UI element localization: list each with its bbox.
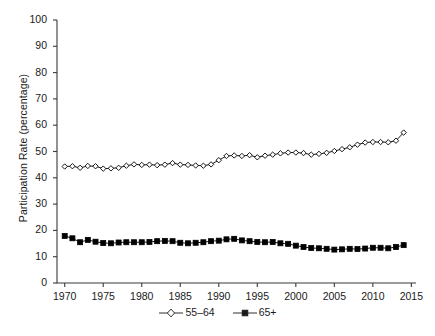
data-point-marker <box>332 148 337 153</box>
data-point-marker <box>301 150 306 155</box>
data-point-marker <box>101 241 106 246</box>
data-point-marker <box>77 165 82 170</box>
x-tick-label: 2005 <box>314 290 354 302</box>
data-point-marker <box>378 245 383 250</box>
data-point-marker <box>332 247 337 252</box>
data-point-marker <box>339 146 344 151</box>
data-point-marker <box>255 239 260 244</box>
data-point-marker <box>224 153 229 158</box>
data-point-marker <box>270 152 275 157</box>
series-55-64 <box>62 130 406 171</box>
data-point-marker <box>355 247 360 252</box>
data-point-marker <box>262 153 267 158</box>
data-point-marker <box>293 150 298 155</box>
data-point-marker <box>124 240 129 245</box>
y-tick-label: 90 <box>17 39 47 51</box>
data-point-marker <box>316 246 321 251</box>
x-tick-label: 1990 <box>199 290 239 302</box>
data-point-marker <box>193 163 198 168</box>
data-point-marker <box>386 246 391 251</box>
data-point-marker <box>85 163 90 168</box>
x-tick-label: 1985 <box>160 290 200 302</box>
data-point-marker <box>247 152 252 157</box>
series-line <box>65 133 404 169</box>
data-point-marker <box>309 152 314 157</box>
data-point-marker <box>147 162 152 167</box>
data-point-marker <box>363 246 368 251</box>
data-point-marker <box>132 240 137 245</box>
data-point-marker <box>247 239 252 244</box>
data-point-marker <box>62 164 67 169</box>
data-point-marker <box>278 151 283 156</box>
y-tick-label: 70 <box>17 92 47 104</box>
data-point-marker <box>93 239 98 244</box>
chart-figure: Participation Rate (percentage) 01020304… <box>0 0 435 336</box>
plot-area <box>0 0 435 336</box>
data-point-marker <box>362 140 367 145</box>
data-point-marker <box>108 241 113 246</box>
data-point-marker <box>70 164 75 169</box>
data-point-marker <box>131 162 136 167</box>
data-point-marker <box>286 241 291 246</box>
data-point-marker <box>147 239 152 244</box>
y-tick-label: 80 <box>17 66 47 78</box>
data-point-marker <box>301 244 306 249</box>
legend-label-55-64: 55–64 <box>185 307 214 319</box>
y-tick-label: 30 <box>17 197 47 209</box>
data-point-marker <box>370 139 375 144</box>
data-point-marker <box>378 139 383 144</box>
y-tick-label: 40 <box>17 171 47 183</box>
data-point-marker <box>85 237 90 242</box>
x-tick-label: 1970 <box>45 290 85 302</box>
x-tick-label: 1975 <box>83 290 123 302</box>
data-point-marker <box>386 140 391 145</box>
data-point-marker <box>93 164 98 169</box>
data-point-marker <box>193 240 198 245</box>
y-tick-label: 100 <box>17 13 47 25</box>
data-point-marker <box>70 236 75 241</box>
data-point-marker <box>347 246 352 251</box>
data-point-marker <box>201 240 206 245</box>
data-point-marker <box>116 240 121 245</box>
data-point-marker <box>216 157 221 162</box>
data-point-marker <box>154 162 159 167</box>
data-point-marker <box>101 166 106 171</box>
data-point-marker <box>170 239 175 244</box>
data-point-marker <box>78 240 83 245</box>
data-point-marker <box>208 162 213 167</box>
data-point-marker <box>278 241 283 246</box>
data-point-marker <box>155 239 160 244</box>
legend-label-65-plus: 65+ <box>259 307 277 319</box>
filled-square-icon <box>232 307 258 319</box>
data-point-marker <box>124 163 129 168</box>
data-point-marker <box>324 246 329 251</box>
data-point-marker <box>185 241 190 246</box>
open-diamond-icon <box>158 307 184 319</box>
legend-item-65-plus[interactable]: 65+ <box>232 307 277 319</box>
data-point-marker <box>316 151 321 156</box>
data-point-marker <box>216 238 221 243</box>
data-point-marker <box>209 239 214 244</box>
data-point-marker <box>270 239 275 244</box>
data-point-marker <box>162 238 167 243</box>
y-tick-label: 0 <box>17 276 47 288</box>
y-tick-label: 60 <box>17 118 47 130</box>
data-point-marker <box>239 153 244 158</box>
data-point-marker <box>309 246 314 251</box>
legend-item-55-64[interactable]: 55–64 <box>158 307 214 319</box>
data-point-marker <box>62 233 67 238</box>
data-point-marker <box>162 162 167 167</box>
data-point-marker <box>340 247 345 252</box>
data-point-marker <box>370 245 375 250</box>
data-point-marker <box>393 244 398 249</box>
data-point-marker <box>116 165 121 170</box>
x-tick-label: 1995 <box>237 290 277 302</box>
data-point-marker <box>293 243 298 248</box>
y-tick-label: 50 <box>17 145 47 157</box>
series-65- <box>62 233 406 252</box>
data-point-marker <box>239 238 244 243</box>
data-point-marker <box>170 160 175 165</box>
data-point-marker <box>231 153 236 158</box>
data-point-marker <box>108 166 113 171</box>
data-point-marker <box>178 240 183 245</box>
